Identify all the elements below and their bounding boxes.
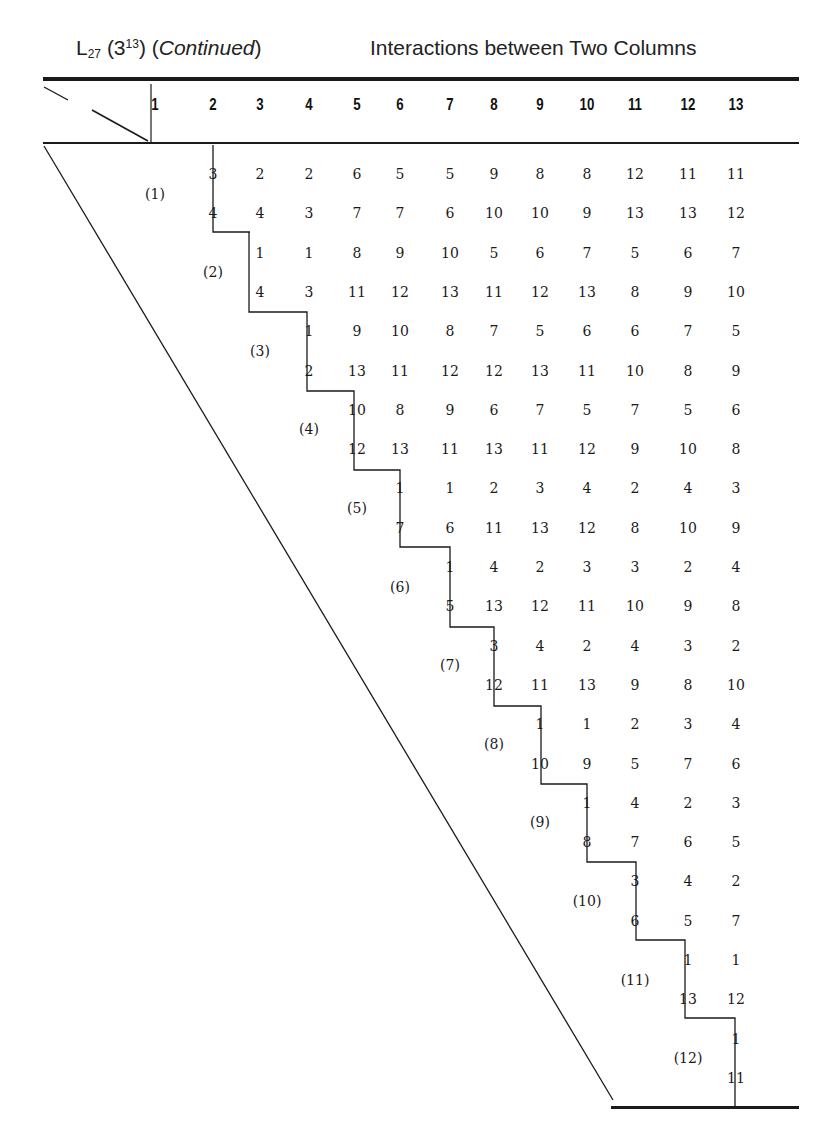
interaction-cell: 13 (337, 363, 377, 379)
interaction-cell: 3 (520, 480, 560, 496)
interaction-cell: 11 (716, 1070, 756, 1086)
interaction-cell: 10 (716, 284, 756, 300)
interaction-cell: 6 (520, 245, 560, 261)
interaction-cell: 10 (716, 677, 756, 693)
interaction-cell: 5 (380, 166, 420, 182)
interaction-cell: 7 (615, 402, 655, 418)
interaction-cell: 9 (337, 323, 377, 339)
interaction-cell: 9 (567, 205, 607, 221)
interaction-cell: 12 (430, 363, 470, 379)
interaction-cell: 6 (716, 756, 756, 772)
row-label: (7) (428, 657, 472, 673)
interaction-cell: 1 (289, 245, 329, 261)
interaction-cell: 6 (716, 402, 756, 418)
interaction-cell: 4 (716, 559, 756, 575)
row-label: (6) (378, 579, 422, 595)
interaction-cell: 2 (615, 480, 655, 496)
interaction-cell: 1 (380, 480, 420, 496)
interaction-cell: 8 (668, 677, 708, 693)
interaction-cell: 10 (337, 402, 377, 418)
interaction-cell: 11 (520, 677, 560, 693)
interaction-cell: 8 (380, 402, 420, 418)
row-label: (5) (335, 500, 379, 516)
interaction-cell: 6 (337, 166, 377, 182)
interaction-cell: 8 (430, 323, 470, 339)
interaction-cell: 8 (520, 166, 560, 182)
interaction-cell: 12 (615, 166, 655, 182)
interaction-cell: 9 (430, 402, 470, 418)
interaction-cell: 2 (615, 716, 655, 732)
interaction-cell: 3 (615, 873, 655, 889)
interaction-cell: 4 (716, 716, 756, 732)
interaction-cell: 4 (193, 205, 233, 221)
interaction-cell: 11 (474, 284, 514, 300)
column-header: 6 (384, 95, 415, 115)
interaction-cell: 8 (567, 834, 607, 850)
interaction-cell: 12 (520, 598, 560, 614)
interaction-cell: 4 (668, 480, 708, 496)
interaction-cell: 2 (716, 638, 756, 654)
interaction-cell: 3 (615, 559, 655, 575)
interaction-cell: 12 (716, 205, 756, 221)
column-header: 12 (672, 95, 703, 115)
interaction-cell: 8 (567, 166, 607, 182)
interaction-cell: 6 (615, 323, 655, 339)
interaction-cell: 4 (615, 795, 655, 811)
interaction-cell: 10 (380, 323, 420, 339)
interaction-cell: 11 (668, 166, 708, 182)
interaction-cell: 4 (567, 480, 607, 496)
interaction-cell: 7 (716, 245, 756, 261)
interaction-cell: 9 (668, 598, 708, 614)
interaction-cell: 3 (716, 480, 756, 496)
interaction-cell: 1 (668, 952, 708, 968)
interaction-cell: 9 (716, 520, 756, 536)
interaction-cell: 2 (520, 559, 560, 575)
interaction-cell: 9 (567, 756, 607, 772)
interaction-cell: 4 (520, 638, 560, 654)
interaction-cell: 9 (615, 441, 655, 457)
interaction-cell: 7 (615, 834, 655, 850)
interaction-cell: 7 (668, 756, 708, 772)
interaction-cell: 2 (668, 559, 708, 575)
row-label: (10) (565, 893, 609, 909)
interaction-cell: 11 (716, 166, 756, 182)
interaction-cell: 13 (668, 991, 708, 1007)
interaction-cell: 13 (430, 284, 470, 300)
interaction-cell: 4 (240, 284, 280, 300)
interaction-cell: 1 (520, 716, 560, 732)
interaction-cell: 5 (716, 834, 756, 850)
interaction-cell: 9 (615, 677, 655, 693)
interaction-cell: 7 (520, 402, 560, 418)
interaction-cell: 11 (520, 441, 560, 457)
interaction-cell: 4 (474, 559, 514, 575)
interaction-cell: 3 (668, 716, 708, 732)
interaction-cell: 5 (520, 323, 560, 339)
interaction-cell: 10 (668, 520, 708, 536)
interaction-cell: 1 (430, 559, 470, 575)
interaction-cell: 8 (337, 245, 377, 261)
interaction-cell: 6 (430, 205, 470, 221)
column-header: 2 (197, 95, 228, 115)
interaction-cell: 9 (668, 284, 708, 300)
interaction-cell: 2 (289, 166, 329, 182)
row-label: (2) (191, 264, 235, 280)
column-header: 11 (619, 95, 650, 115)
interaction-cell: 10 (615, 598, 655, 614)
interaction-cell: 1 (567, 716, 607, 732)
interaction-cell: 1 (430, 480, 470, 496)
interaction-cell: 5 (567, 402, 607, 418)
interaction-cell: 2 (240, 166, 280, 182)
row-label: (4) (287, 421, 331, 437)
column-header: 9 (524, 95, 555, 115)
interaction-cell: 11 (567, 598, 607, 614)
interaction-cell: 7 (380, 520, 420, 536)
interaction-cell: 11 (380, 363, 420, 379)
column-header: 5 (341, 95, 372, 115)
interaction-cell: 3 (193, 166, 233, 182)
interaction-cell: 11 (337, 284, 377, 300)
interaction-cell: 2 (716, 873, 756, 889)
interaction-cell: 9 (380, 245, 420, 261)
interaction-cell: 11 (474, 520, 514, 536)
column-header: 3 (244, 95, 275, 115)
interaction-cell: 5 (668, 913, 708, 929)
